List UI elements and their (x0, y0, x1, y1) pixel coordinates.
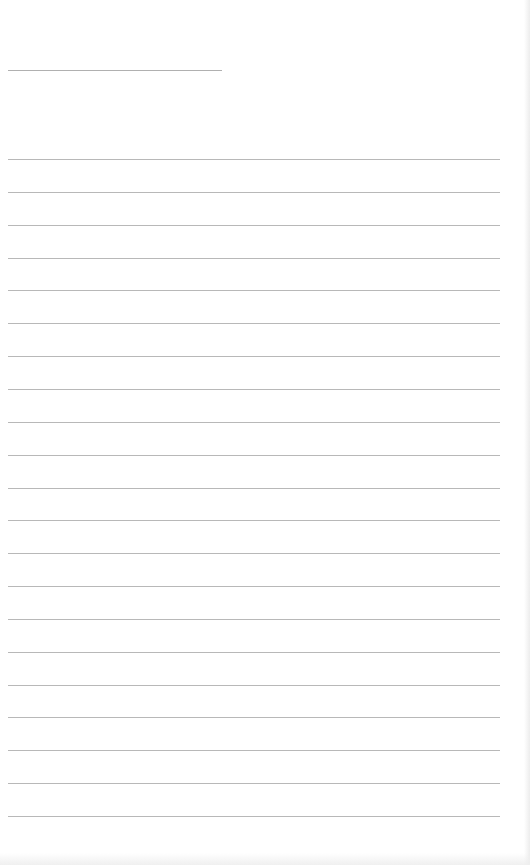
ruled-line (8, 225, 500, 226)
title-write-line (8, 70, 222, 71)
ruled-line (8, 586, 500, 587)
ruled-line (8, 520, 500, 521)
ruled-line (8, 717, 500, 718)
ruled-line (8, 750, 500, 751)
ruled-line (8, 816, 500, 817)
ruled-line (8, 192, 500, 193)
page-bottom-shade (0, 853, 530, 865)
ruled-line (8, 783, 500, 784)
ruled-line (8, 488, 500, 489)
lined-paper-page (0, 0, 530, 865)
ruled-line (8, 356, 500, 357)
page-edge-shadow (524, 0, 530, 865)
ruled-line (8, 619, 500, 620)
ruled-line (8, 323, 500, 324)
ruled-line (8, 159, 500, 160)
ruled-line (8, 455, 500, 456)
ruled-line (8, 290, 500, 291)
ruled-line (8, 652, 500, 653)
ruled-line (8, 389, 500, 390)
ruled-line (8, 685, 500, 686)
ruled-line (8, 422, 500, 423)
ruled-line (8, 553, 500, 554)
ruled-line (8, 258, 500, 259)
